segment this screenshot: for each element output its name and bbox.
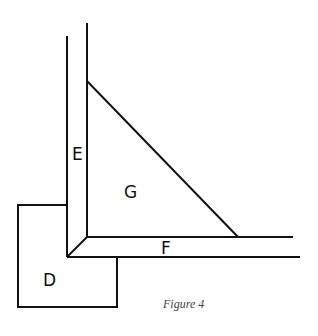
label-f: F [161,238,171,258]
corner-miter [67,237,87,257]
label-e: E [72,144,83,164]
figure-diagram: E G F D Figure 4 [0,0,318,336]
triangle-g-hypotenuse [87,81,238,237]
label-g: G [124,182,137,202]
label-d: D [43,270,56,290]
figure-caption: Figure 4 [162,297,204,311]
